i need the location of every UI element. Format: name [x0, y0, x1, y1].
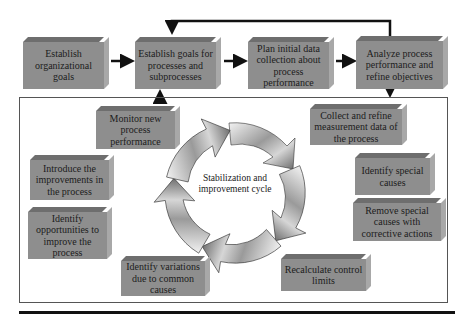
- box-label: Monitor new process performance: [96, 111, 175, 149]
- box-label: Establish goals for processes and subpro…: [135, 42, 216, 89]
- box-remove-special: Remove special causes with corrective ac…: [353, 198, 446, 241]
- box-label: Introduce the improvements in the proces…: [30, 160, 109, 200]
- box-plan-data-collection: Plan initial data collection about proce…: [248, 37, 334, 89]
- box-monitor-performance: Monitor new process performance: [96, 106, 180, 149]
- box-identify-opportunities: Identify opportunities to improve the pr…: [28, 207, 112, 259]
- box-introduce-improvements: Introduce the improvements in the proces…: [30, 155, 114, 200]
- box-identify-variations: Identify variations due to common causes: [121, 256, 210, 296]
- box-collect-data: Collect and refine measurement data of t…: [310, 104, 407, 145]
- box-label: Plan initial data collection about proce…: [248, 42, 329, 89]
- box-identify-special: Identify special causes: [355, 153, 435, 195]
- box-label: Recalculate control limits: [281, 259, 366, 291]
- cycle-center-label: Stabilization and improvement cycle: [197, 173, 273, 195]
- box-label: Analyze process performance and refine o…: [356, 41, 443, 89]
- bottom-rule: [19, 311, 455, 314]
- box-label: Identify special causes: [355, 158, 430, 195]
- box-label: Remove special causes with corrective ac…: [353, 203, 441, 241]
- box-label: Identify variations due to common causes: [121, 261, 205, 296]
- box-label: Collect and refine measurement data of t…: [310, 109, 402, 145]
- box-analyze-performance: Analyze process performance and refine o…: [356, 36, 448, 89]
- box-recalculate-limits: Recalculate control limits: [281, 254, 371, 291]
- box-establish-org-goals: Establish organizational goals: [23, 37, 109, 89]
- box-label: Identify opportunities to improve the pr…: [28, 212, 107, 259]
- box-establish-process-goals: Establish goals for processes and subpro…: [135, 37, 221, 89]
- feedback-arrow: [172, 21, 390, 36]
- box-label: Establish organizational goals: [23, 42, 104, 89]
